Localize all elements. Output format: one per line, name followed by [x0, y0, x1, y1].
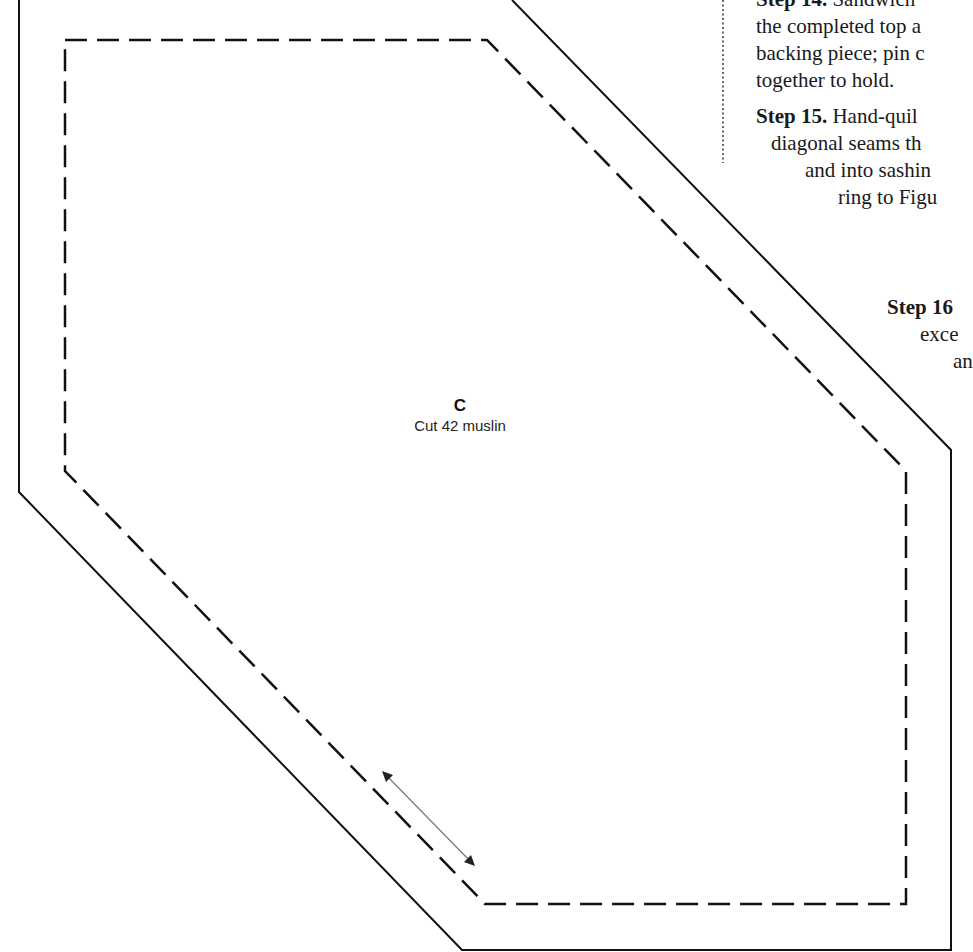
step16-line-2: exce	[920, 321, 958, 348]
grainline-arrow-icon	[382, 771, 475, 866]
step15-line-4: ring to Figu	[838, 184, 937, 211]
step16-line-3: an	[953, 348, 973, 375]
step15-line-3: and into sashin	[805, 157, 931, 184]
step14-line-4: together to hold.	[756, 67, 894, 94]
piece-letter: C	[380, 396, 540, 416]
step15-text: Hand-quil	[832, 104, 917, 128]
step14-line-2: the completed top a	[756, 13, 921, 40]
step15-label: Step 15.	[756, 104, 827, 128]
step16-label: Step 16	[887, 295, 953, 319]
step16-line-1: Step 16	[887, 294, 953, 321]
step14-line-1: Step 14. Sandwich	[756, 0, 915, 13]
step14-line-3: backing piece; pin c	[756, 40, 925, 67]
step14-label: Step 14.	[756, 0, 827, 11]
step15-line-1: Step 15. Hand-quil	[756, 103, 918, 130]
step14-text: Sandwich	[832, 0, 915, 11]
cut-instruction: Cut 42 muslin	[380, 417, 540, 435]
sewing-line	[65, 40, 906, 904]
step15-line-2: diagonal seams th	[771, 130, 921, 157]
